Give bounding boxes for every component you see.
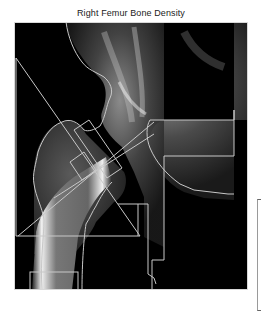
scale-bar	[257, 199, 261, 311]
bone-density-scan	[14, 22, 248, 290]
figure-title: Right Femur Bone Density	[0, 8, 262, 18]
